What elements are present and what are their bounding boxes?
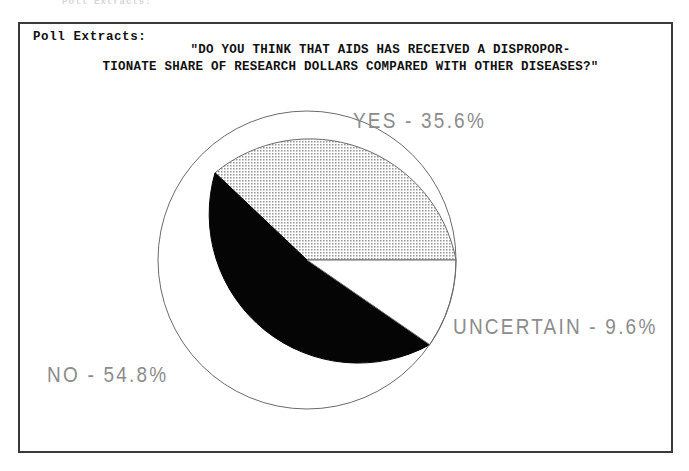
pie-outline xyxy=(158,111,456,409)
poll-question-line-1: "DO YOU THINK THAT AIDS HAS RECEIVED A D… xyxy=(20,42,675,59)
pie-label-yes: YES - 35.6% xyxy=(353,108,486,134)
pie-slice-no xyxy=(209,173,430,363)
pie-chart: YES - 35.6% UNCERTAIN - 9.6% NO - 54.8% xyxy=(20,24,675,455)
page-root: Poll Extracts: Poll Extracts: "DO YOU TH… xyxy=(0,0,689,471)
poll-question-line-2: TIONATE SHARE OF RESEARCH DOLLARS COMPAR… xyxy=(20,59,675,76)
pie-chart-svg xyxy=(20,24,675,455)
scan-artifact-text: Poll Extracts: xyxy=(62,0,152,7)
pie-slice-yes xyxy=(215,139,456,260)
pie-slice-uncertain xyxy=(307,260,456,345)
pie-label-uncertain: UNCERTAIN - 9.6% xyxy=(453,314,657,340)
figure-frame: Poll Extracts: "DO YOU THINK THAT AIDS H… xyxy=(18,22,673,453)
poll-question: "DO YOU THINK THAT AIDS HAS RECEIVED A D… xyxy=(20,42,675,76)
pie-label-no: NO - 54.8% xyxy=(47,362,168,388)
